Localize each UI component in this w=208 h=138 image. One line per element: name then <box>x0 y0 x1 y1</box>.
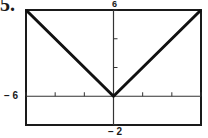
plot-area <box>0 0 208 138</box>
graphing-calculator-figure: 5. 6 − 6 − 2 <box>0 0 208 138</box>
